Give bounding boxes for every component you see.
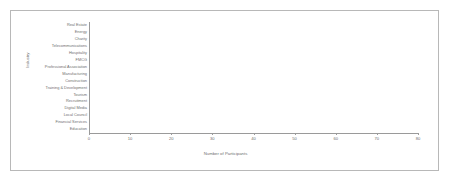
y-axis-tick-label: Recruitment: [66, 99, 87, 103]
x-axis-tick: [212, 133, 213, 135]
y-axis-tick-label: Education: [70, 127, 87, 131]
y-axis-tick-label: Tourism: [73, 93, 87, 97]
x-axis-tick: [418, 133, 419, 135]
y-axis-tick-label: FMCG: [76, 58, 87, 62]
x-axis-tick: [89, 133, 90, 135]
bar: [89, 100, 114, 104]
bar: [89, 86, 110, 90]
y-axis-tick-label: Hospitality: [69, 51, 87, 55]
bar: [89, 93, 114, 97]
bar: [89, 72, 110, 76]
x-axis-tick: [295, 133, 296, 135]
x-axis-tick: [377, 133, 378, 135]
y-axis-tick-label: Digital Media: [65, 106, 88, 110]
y-axis-tick-label: Training & Development: [45, 86, 87, 90]
bar: [89, 44, 105, 48]
y-axis-tick-label: Local Council: [64, 113, 87, 117]
x-axis-tick-label: 80: [408, 137, 428, 141]
bar: [89, 58, 105, 62]
bar: [89, 128, 385, 132]
y-axis-tick-label: Construction: [65, 79, 87, 83]
x-axis-tick-label: 30: [202, 137, 222, 141]
y-axis-tick-label: Charity: [75, 37, 87, 41]
x-axis-tick: [130, 133, 131, 135]
x-axis-tick-label: 40: [244, 137, 264, 141]
bar: [89, 30, 93, 34]
x-axis-tick-label: 60: [326, 137, 346, 141]
bar: [89, 51, 105, 55]
x-axis-tick-label: 10: [120, 137, 140, 141]
y-axis-tick-label: Telecommunications: [52, 44, 87, 48]
bar: [89, 24, 93, 28]
x-axis-tick: [336, 133, 337, 135]
x-axis-tick-label: 70: [367, 137, 387, 141]
plot-area: [89, 22, 418, 133]
x-axis-title: Number of Participants: [0, 152, 451, 156]
y-axis-tick-label: Real Estate: [67, 23, 87, 27]
bar: [89, 79, 110, 83]
y-axis-tick-label: Energy: [75, 30, 87, 34]
x-axis-tick-label: 0: [79, 137, 99, 141]
x-axis-tick-label: 50: [285, 137, 305, 141]
y-axis-tick-label: Financial Services: [55, 120, 87, 124]
y-axis-tick-label: Manufacturing: [62, 72, 87, 76]
x-axis-tick: [254, 133, 255, 135]
x-axis-tick: [171, 133, 172, 135]
y-axis-title: Industry: [26, 38, 30, 82]
bar: [89, 114, 126, 118]
x-axis-tick-label: 20: [161, 137, 181, 141]
bar: [89, 107, 118, 111]
bar: [89, 121, 188, 125]
chart-figure: Industry Number of Participants 01020304…: [0, 0, 451, 184]
bar: [89, 37, 101, 41]
bar: [89, 65, 110, 69]
y-axis-tick-label: Professional Association: [45, 65, 87, 69]
